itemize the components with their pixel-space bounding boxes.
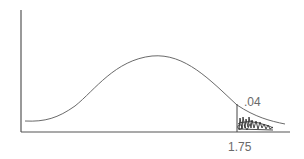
x-tick-label-cutoff: 1.75 (228, 141, 251, 153)
density-curve (25, 56, 285, 124)
normal-distribution-chart (0, 0, 304, 159)
shaded-tail-region (238, 117, 273, 130)
tail-area-label: .04 (244, 96, 261, 108)
